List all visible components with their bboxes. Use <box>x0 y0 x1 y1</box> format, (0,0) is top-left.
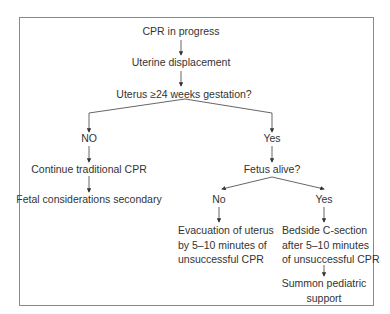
flowchart-connectors <box>0 0 390 314</box>
evacuation-line-1: Evacuation of uterus <box>178 223 274 238</box>
node-uterine-displacement: Uterine displacement <box>132 55 231 70</box>
node-fetus-yes: Yes <box>315 192 332 207</box>
pediatric-line-1: Summon pediatric <box>282 276 367 291</box>
evacuation-line-2: by 5–10 minutes of <box>178 238 274 253</box>
node-continue-cpr: Continue traditional CPR <box>31 162 147 177</box>
node-no-branch: NO <box>81 131 97 146</box>
csection-line-1: Bedside C-section <box>282 223 379 238</box>
node-cpr-in-progress: CPR in progress <box>142 24 219 39</box>
node-fetus-no: No <box>212 192 225 207</box>
node-evacuation: Evacuation of uterus by 5–10 minutes of … <box>178 223 274 267</box>
evacuation-line-3: unsuccessful CPR <box>178 252 274 267</box>
node-yes-branch: Yes <box>263 131 280 146</box>
node-fetus-question: Fetus alive? <box>244 162 301 177</box>
pediatric-line-2: support <box>282 291 367 306</box>
node-fetal-secondary: Fetal considerations secondary <box>16 192 161 207</box>
csection-line-3: of unsuccessful CPR <box>282 252 379 267</box>
node-csection: Bedside C-section after 5–10 minutes of … <box>282 223 379 267</box>
node-pediatric-support: Summon pediatric support <box>282 276 367 305</box>
csection-line-2: after 5–10 minutes <box>282 238 379 253</box>
node-gestation-question: Uterus ≥24 weeks gestation? <box>116 87 251 102</box>
